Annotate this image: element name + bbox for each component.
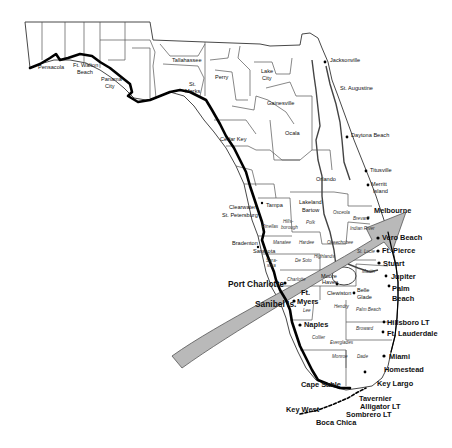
label-bartow: Bartow [302,207,320,213]
label-ft-pierce: Ft. Pierce [382,246,415,255]
county-collier: Collier [312,335,325,340]
label-gainesville: Gainesville [267,100,294,106]
county-dade: Dade [357,354,368,359]
county-martin: Martin [362,269,375,274]
label-perry: Perry [215,74,229,80]
label-jupiter: Jupiter [391,272,416,281]
county-brevard: Brevard [353,216,370,221]
county-polk: Polk [306,220,316,225]
county-hendry: Hendry [334,304,350,309]
label-moore-haven: Haven [322,279,338,285]
label-clewiston: Clewiston [327,290,351,296]
label-titusville: Titusville [370,167,392,173]
label-sanibel-is: Sanibel Is. [255,299,296,309]
label-st: St. [189,81,196,87]
label-clearwater: Clearwater [229,204,256,210]
county-broward: Broward [356,326,374,331]
label-ft-walton-beach: Beach [77,69,93,75]
label-port-charlotte: Port Charlotte [228,279,284,289]
label-st-augustine: St. Augustine [340,85,373,91]
label-tampa: Tampa [266,202,284,208]
label-belle: Belle [357,287,369,293]
county-manatee: Manatee [273,240,291,245]
county-monroe: Monroe [332,354,348,359]
label-ft: Ft. [301,288,310,297]
label-bradenton: Bradenton [232,240,258,246]
county-everglades: Everglades [330,340,354,345]
county-palm-beach: Palm Beach [356,307,381,312]
label-ft-lauderdale: Ft. Lauderdale [387,329,438,338]
map-canvas: Pensacola Ft. Walton Beach Panama City T… [0,0,452,448]
label-cedar-key: Cedar Key [220,136,247,142]
county-lee: Lee [303,308,311,313]
label-jacksonville: Jacksonville [330,57,360,63]
florida-map: Pensacola Ft. Walton Beach Panama City T… [0,0,452,448]
label-tallahassee: Tallahassee [172,57,202,63]
label-ft-myers: Myers [297,297,318,306]
label-key-west: Key West [286,405,320,414]
county-highlands: Highlands [314,254,335,259]
label-st-marks: Marks [185,88,200,94]
county-charlotte: Charlotte [287,277,306,282]
label-palm: Palm [392,284,410,293]
label-orlando: Orlando [316,176,336,182]
label-stuart: Stuart [383,259,405,268]
label-pensacola: Pensacola [38,64,65,70]
label-hillsboro-lt: Hillsboro LT [387,318,430,327]
label-merritt-island: Island [373,188,388,194]
label-panama-city: City [105,83,115,89]
label-daytona-beach: Daytona Beach [351,132,389,138]
label-ocala: Ocala [285,130,301,136]
label-palm-beach: Beach [392,294,415,303]
county-osceola: Osceola [333,210,350,215]
county-desoto: De Soto [295,258,312,263]
label-lake-city: City [262,75,272,81]
label-naples: Naples [304,320,328,329]
county-st-lucie: St. Lucie [357,249,375,254]
label-homestead: Homestead [384,365,424,374]
label-ft-walton: Ft. Walton [73,62,98,68]
county-pinellas: Pinellas [262,224,279,229]
label-lakeland: Lakeland [299,199,322,205]
label-miami: Miami [389,352,410,361]
label-st-petersburg: St. Petersburg [222,212,258,218]
label-sarasota: Sarasota [253,248,276,254]
label-panama: Panama [101,76,123,82]
label-melbourne: Melbourne [374,206,411,215]
label-key-largo: Key Largo [377,379,414,388]
county-indian-river: Indian River [350,226,375,231]
label-boca-chica: Boca Chica [316,418,357,427]
county-sarasota-2: sota [267,263,276,268]
label-belle-glade: Glade [357,294,372,300]
label-merritt: Merritt [371,181,387,187]
county-okeechobee: Okeechobee [327,240,353,245]
county-hillsborough-1: Hills- [283,219,294,224]
county-hardee: Hardee [299,240,315,245]
label-cape-sable: Cape Sable [301,380,341,389]
label-vero-beach: Vero Beach [382,233,423,242]
label-lake: Lake [261,68,273,74]
county-hillsborough-2: borough [281,225,298,230]
